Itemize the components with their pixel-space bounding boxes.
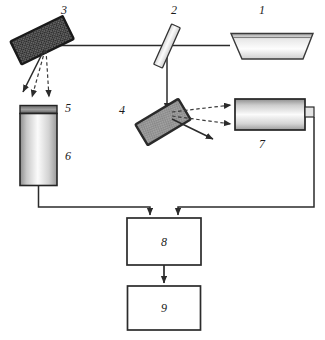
component-grating-lower	[135, 99, 190, 145]
label-component-8: 8	[161, 235, 167, 249]
ray-grating3-dashed-2	[46, 50, 49, 97]
detector-window-cap	[20, 106, 57, 114]
label-component-6: 6	[65, 149, 71, 163]
optical-schematic-diagram: 1 2 3 4 5 6 7 8 9	[0, 0, 325, 340]
grating-upper-face	[10, 16, 73, 64]
grating-lower-face	[135, 99, 190, 145]
wire-detector6-to-unit8	[39, 186, 151, 216]
component-vertical-detector	[20, 114, 57, 186]
horizontal-detector-connector	[305, 107, 314, 117]
ray-grating4-solid	[172, 119, 213, 139]
label-component-1: 1	[259, 3, 265, 17]
label-component-7: 7	[259, 137, 266, 151]
horizontal-detector-body	[235, 99, 305, 130]
label-component-4: 4	[119, 103, 125, 117]
component-horizontal-detector	[235, 99, 314, 130]
label-component-9: 9	[161, 301, 167, 315]
label-component-5: 5	[65, 101, 71, 115]
label-component-3: 3	[60, 3, 67, 17]
vertical-detector-body	[20, 114, 57, 186]
schematic-canvas: 1 2 3 4 5 6 7 8 9	[0, 0, 325, 340]
component-light-source	[231, 34, 313, 60]
label-component-2: 2	[171, 3, 177, 17]
component-grating-upper	[10, 16, 73, 64]
